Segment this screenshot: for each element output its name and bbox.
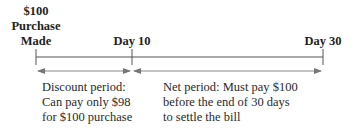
made-word: Made [6,34,66,49]
day-10-text: Day 10 [107,34,157,49]
net-period-description: Net period: Must pay $100 before the end… [163,80,298,125]
day-30-label: Day 30 [298,34,348,49]
purchase-marker-label: $100 Purchase Made [6,4,66,49]
discount-line-1: Discount period: [42,80,132,95]
purchase-word: Purchase [6,19,66,34]
net-line-1: Net period: Must pay $100 [163,80,298,95]
discount-line-3: for $100 purchase [42,110,132,125]
day-10-label: Day 10 [107,34,157,49]
net-line-3: to settle the bill [163,110,298,125]
discount-period-description: Discount period: Can pay only $98 for $1… [42,80,132,125]
day-30-text: Day 30 [298,34,348,49]
discount-line-2: Can pay only $98 [42,95,132,110]
purchase-amount: $100 [6,4,66,19]
net-line-2: before the end of 30 days [163,95,298,110]
